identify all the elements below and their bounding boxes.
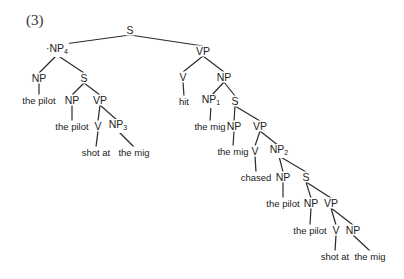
terminal-word: hit (178, 96, 190, 107)
tree-edge (331, 208, 353, 225)
tree-node-np: NP (275, 172, 292, 183)
node-label: V (179, 71, 186, 83)
node-label: NP (346, 224, 361, 236)
node-label: NP (32, 72, 47, 84)
tree-node-vp: VP (92, 95, 108, 106)
node-label: the mig (194, 121, 225, 132)
tree-edge (255, 156, 256, 172)
tree-node-s: S (79, 73, 88, 84)
tree-node-vp: VP (252, 121, 268, 132)
node-label: NP (202, 93, 217, 105)
node-label: S (80, 72, 87, 84)
tree-node-v: V (93, 121, 102, 132)
node-label: shot at (82, 147, 111, 158)
node-label: the mig (118, 147, 149, 158)
tree-node-v: V (178, 72, 187, 83)
node-label: S (231, 95, 238, 107)
node-label: S (302, 171, 309, 183)
tree-edge (130, 35, 203, 46)
node-label: V (332, 224, 339, 236)
node-label: chased (241, 172, 272, 183)
tree-node-v: V (331, 225, 340, 236)
node-label: the mig (217, 146, 248, 157)
node-label: the pilot (266, 198, 299, 209)
tree-node-vp: VP (323, 198, 339, 209)
node-label: NP (270, 143, 285, 155)
node-label: VP (324, 197, 338, 209)
tree-edge (210, 106, 211, 121)
tree-edge (335, 235, 336, 251)
tree-node-np: NP2 (269, 144, 290, 158)
tree-node-np: NP (216, 72, 233, 83)
terminal-word: the pilot (292, 225, 327, 236)
tree-node-np: NP (226, 121, 243, 132)
tree-node-s: S (125, 25, 134, 36)
tree-edge (353, 235, 370, 251)
tree-edge (39, 55, 57, 73)
node-label: the pilot (22, 95, 55, 106)
terminal-word: the pilot (265, 198, 300, 209)
syntax-tree-diagram: (3) S·NP4NPthe pilotSNPthe pilotVPVshot … (0, 0, 404, 279)
node-label: hit (179, 96, 189, 107)
tree-node-s: S (301, 172, 310, 183)
tree-node-s: S (230, 96, 239, 107)
tree-node-np: NP (31, 73, 48, 84)
node-index: 4 (64, 48, 68, 55)
terminal-word: shot at (320, 251, 351, 262)
tree-edge (183, 82, 184, 96)
node-label: V (94, 120, 101, 132)
tree-node-np: NP1 (201, 94, 222, 108)
tree-node-np: ·NP4 (45, 43, 69, 57)
node-label: NP (109, 118, 124, 130)
terminal-word: shot at (81, 147, 112, 158)
tree-edge (233, 131, 234, 146)
node-label: the pilot (293, 225, 326, 236)
tree-edge (310, 208, 311, 225)
tree-node-vp: VP (195, 46, 211, 57)
node-label: NP (217, 71, 232, 83)
node-label: V (251, 145, 258, 157)
terminal-word: the pilot (21, 95, 56, 106)
terminal-word: the pilot (54, 121, 89, 132)
node-index: 1 (216, 99, 220, 106)
node-label: NP (276, 171, 291, 183)
tree-edge (96, 131, 98, 147)
tree-node-np: NP (345, 225, 362, 236)
node-label: NP (304, 197, 319, 209)
node-label: S (126, 24, 133, 36)
node-label: the pilot (55, 121, 88, 132)
terminal-word: the mig (117, 147, 150, 158)
node-label: NP (50, 42, 65, 54)
tree-node-np: NP (64, 95, 81, 106)
tree-node-np: NP (303, 198, 320, 209)
node-label: the mig (354, 251, 385, 262)
node-label: VP (253, 120, 267, 132)
node-label: NP (65, 94, 80, 106)
node-index: 3 (123, 124, 127, 131)
tree-edge (57, 55, 84, 73)
node-label: VP (93, 94, 107, 106)
node-label: shot at (321, 251, 350, 262)
node-label: VP (196, 45, 210, 57)
node-index: 2 (284, 149, 288, 156)
tree-edge (118, 131, 134, 147)
node-label: NP (227, 120, 242, 132)
terminal-word: chased (240, 172, 273, 183)
terminal-word: the mig (353, 251, 386, 262)
terminal-word: the mig (216, 146, 249, 157)
tree-node-np: NP3 (108, 119, 129, 133)
tree-node-v: V (250, 146, 259, 157)
terminal-word: the mig (193, 121, 226, 132)
